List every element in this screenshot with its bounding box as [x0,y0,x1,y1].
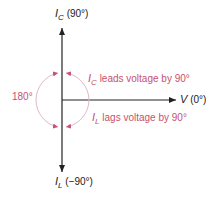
lags-arc-icon [66,100,89,127]
180-arc-icon [36,73,58,100]
leads-arc-icon [66,73,89,100]
v-label: V (0°) [180,94,206,105]
angle-180-label: 180° [12,92,33,102]
lags-annotation: IL lags voltage by 90° [92,112,187,123]
il-label: IL (−90°) [55,176,93,187]
180-arc-lower [36,100,58,127]
ic-label: IC (90°) [55,8,88,19]
leads-annotation: IC leads voltage by 90° [88,73,190,84]
